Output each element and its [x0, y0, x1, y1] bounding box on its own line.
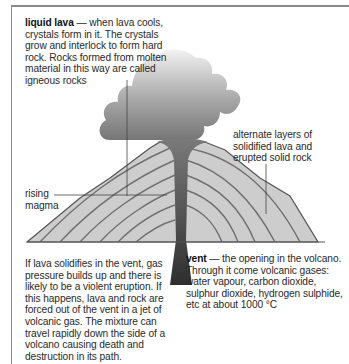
vent-annotation: vent — the opening in the volcano. Throu… [186, 253, 346, 311]
vent-description: — the opening in the volcano. Through it… [186, 253, 343, 310]
solidified-lava-annotation: If lava solidifies in the vent, gas pres… [25, 258, 175, 362]
rock-layers-annotation: alternate layers of solidified lava and … [233, 129, 343, 164]
rising-magma-annotation: rising magma [25, 188, 65, 211]
liquid-lava-annotation: liquid lava — when lava cools, crystals … [25, 17, 175, 87]
liquid-lava-term: liquid lava [25, 17, 74, 28]
vent-term: vent [186, 253, 207, 264]
